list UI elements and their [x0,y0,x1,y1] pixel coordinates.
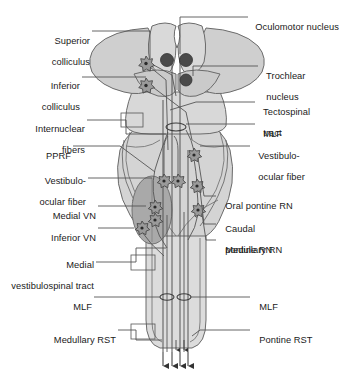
label-internuclear-fibers-line1: Internuclear [35,124,85,134]
trochlear-nucleus [180,74,192,86]
label-superior-colliculus: Superior colliculus [24,25,90,67]
label-pontine-rst-text: Pontine RST [259,335,312,345]
label-mvst-line2: vestibulospinal tract [11,281,94,291]
label-oculomotor-nucleus-text: Oculomotor nucleus [255,22,339,32]
label-vof-right-line1: Vestibulo- [258,151,299,161]
label-pprf-text: PPRF [46,151,71,161]
oculomotor-nucleus-right [180,54,193,67]
label-tectospinal-line1: Tectospinal [263,107,310,117]
label-inferior-colliculus-line1: Inferior [51,81,80,91]
label-trochlear-line1: Trochlear [266,71,305,81]
label-medullary-rst: Medullary RST [26,324,116,345]
label-oral-pontine-rn-text: Oral pontine RN [225,201,292,211]
label-pprf: PPRF [19,140,71,161]
label-mlf-left: MLF [40,291,92,312]
label-inferior-vn-text: Inferior VN [51,233,96,243]
label-inferior-colliculus: Inferior colliculus [14,70,80,112]
label-superior-colliculus-line2: colliculus [52,57,90,67]
label-mlf-right-lower: MLF [254,291,300,312]
label-inferior-vn: Inferior VN [24,222,96,243]
label-mvst-line1: Medial [66,260,94,270]
label-oculomotor-nucleus: Oculomotor nucleus [250,11,338,32]
label-medullary-rn: Medullary RN [220,234,324,255]
superior-colliculus-right [178,23,206,74]
label-medullary-rn-text: Medullary RN [225,245,282,255]
label-inferior-colliculus-line2: colliculus [42,102,80,112]
label-superior-colliculus-line1: Superior [54,36,90,46]
label-oral-pontine-rn: Oral pontine RN [220,190,334,211]
oculomotor-nucleus-left [161,54,174,67]
label-medial-vn-text: Medial VN [53,211,96,221]
label-medial-vestibulospinal-tract: Medial vestibulospinal tract [0,249,94,291]
label-vof-left-line1: Vestibulo- [45,176,86,186]
label-mlf-upper-text: MLF [263,129,282,139]
label-mlf-right-upper: MLF [258,118,304,139]
label-medullary-rst-text: Medullary RST [54,335,116,345]
label-mlf-left-text: MLF [73,302,92,312]
label-caudal-pontine-line1: Caudal [225,224,255,234]
label-vestibulo-ocular-fiber-right: Vestibulo- ocular fiber [253,140,335,182]
label-mlf-lower-text: MLF [259,302,278,312]
label-pontine-rst: Pontine RST [254,324,338,345]
label-vof-right-line2: ocular fiber [258,172,305,182]
label-medial-vn: Medial VN [26,200,96,221]
